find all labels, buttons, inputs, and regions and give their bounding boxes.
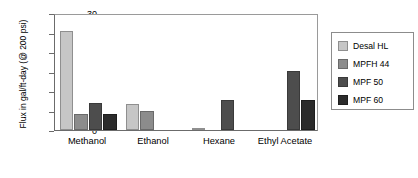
y-axis-title: Flux in gal/ft-day (@ 200 psi) xyxy=(18,4,28,144)
bar xyxy=(89,103,103,130)
x-axis-tick-label: Methanol xyxy=(68,136,106,146)
bar xyxy=(60,31,74,130)
legend-label: MPFH 44 xyxy=(353,59,389,69)
legend-item: Desal HL xyxy=(338,40,388,52)
chart-figure: Flux in gal/ft-day (@ 200 psi) 051015202… xyxy=(0,0,418,178)
legend-label: Desal HL xyxy=(353,41,388,51)
bar xyxy=(301,100,315,130)
legend-swatch-icon xyxy=(338,77,348,87)
bar xyxy=(140,111,154,131)
legend-item: MPFH 44 xyxy=(338,58,389,70)
legend-label: MPF 60 xyxy=(353,95,383,105)
legend-label: MPF 50 xyxy=(353,77,383,87)
x-axis-tick-label: Hexane xyxy=(203,136,235,146)
plot-area xyxy=(54,14,318,131)
bar xyxy=(192,128,206,130)
bar xyxy=(221,100,235,130)
legend: Desal HLMPFH 44MPF 50MPF 60 xyxy=(331,32,414,110)
bar-series-container xyxy=(55,15,317,130)
bar xyxy=(126,104,140,130)
bar xyxy=(103,114,117,130)
legend-swatch-icon xyxy=(338,59,348,69)
x-axis-tick-label: Ethanol xyxy=(137,136,169,146)
legend-item: MPF 60 xyxy=(338,94,383,106)
legend-swatch-icon xyxy=(338,41,348,51)
legend-item: MPF 50 xyxy=(338,76,383,88)
y-axis-tick-mark xyxy=(49,131,54,132)
bar xyxy=(287,71,301,130)
x-axis-tick-label: Ethyl Acetate xyxy=(258,136,312,146)
legend-swatch-icon xyxy=(338,95,348,105)
bar xyxy=(74,114,88,130)
